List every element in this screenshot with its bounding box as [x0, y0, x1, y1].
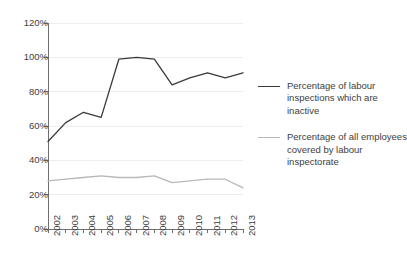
legend-item-employees-covered: Percentage of all employees covered by l…: [258, 131, 407, 168]
legend-label-inspections-inactive: Percentage of labour inspections which a…: [287, 80, 407, 117]
x-axis-tick-label: 2006: [123, 215, 133, 236]
x-axis-tick-label: 2007: [141, 215, 151, 236]
x-axis-tick-label: 2010: [194, 215, 204, 236]
x-axis-tick-label: 2012: [229, 215, 239, 236]
legend-item-inspections-inactive: Percentage of labour inspections which a…: [258, 80, 407, 117]
legend-line-swatch-dark: [258, 81, 280, 92]
x-axis-tick-label: 2004: [87, 215, 97, 236]
legend-line-swatch-light: [258, 132, 280, 143]
x-axis-labels: 2002200320042005200620072008200920102011…: [0, 0, 260, 271]
plot-area: 0%20%40%60%80%100%120% 20022003200420052…: [0, 0, 260, 271]
x-axis-tick-label: 2013: [247, 215, 257, 236]
x-axis-tick-label: 2008: [158, 215, 168, 236]
x-axis-tick-label: 2011: [212, 216, 222, 236]
x-axis-tick-label: 2002: [52, 215, 62, 236]
x-axis-tick-label: 2009: [176, 215, 186, 236]
chart-legend: Percentage of labour inspections which a…: [258, 80, 407, 182]
x-axis-tick-label: 2005: [105, 215, 115, 236]
legend-label-employees-covered: Percentage of all employees covered by l…: [287, 131, 407, 168]
x-axis-tick-label: 2003: [70, 215, 80, 236]
chart-container: 0%20%40%60%80%100%120% 20022003200420052…: [0, 0, 407, 271]
